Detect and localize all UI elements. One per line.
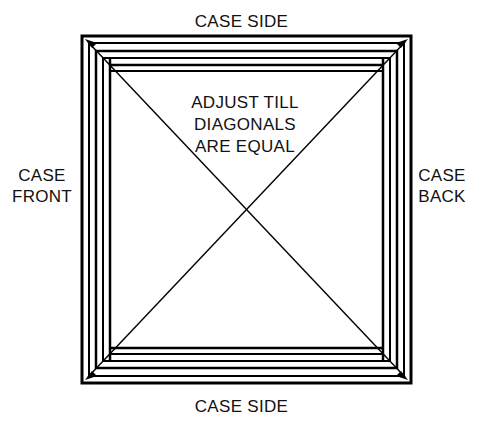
- label-case-side-bottom: CASE SIDE: [0, 396, 483, 417]
- frame-drawing: [0, 0, 483, 435]
- label-case-side-top: CASE SIDE: [0, 11, 483, 32]
- label-case-back: CASE BACK: [404, 165, 480, 207]
- case-frame-diagram: CASE SIDE CASE SIDE CASE FRONT CASE BACK…: [0, 0, 483, 435]
- arrowhead-top-left-icon: [85, 39, 97, 48]
- arrowhead-bottom-right-icon: [396, 371, 408, 380]
- instruction-note: ADJUST TILL DIAGONALS ARE EQUAL: [150, 92, 340, 158]
- arrowhead-top-right-icon: [396, 39, 408, 48]
- label-case-front: CASE FRONT: [4, 165, 80, 207]
- arrowhead-bottom-left-icon: [85, 371, 97, 380]
